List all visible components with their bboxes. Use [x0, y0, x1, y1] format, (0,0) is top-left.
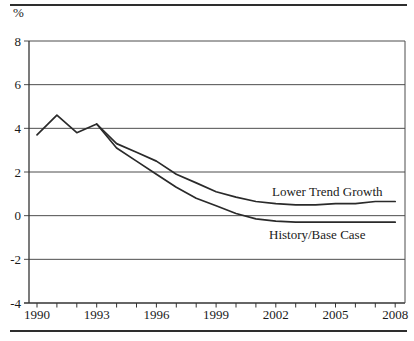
series-line-history-base-case	[37, 115, 395, 222]
series-label-history-base-case: History/Base Case	[269, 228, 365, 242]
bottom-rule	[10, 330, 407, 332]
x-tick-label-1996: 1996	[143, 307, 170, 322]
y-tick-label--2: -2	[10, 252, 21, 267]
x-tick-label-1993: 1993	[84, 307, 110, 322]
x-tick-label-2005: 2005	[323, 307, 349, 322]
y-tick-label-4: 4	[15, 121, 22, 136]
x-tick-label-2008: 2008	[382, 307, 408, 322]
y-tick-label-6: 6	[15, 77, 22, 92]
y-tick-label-8: 8	[15, 34, 22, 49]
y-tick-label--4: -4	[10, 296, 21, 311]
x-tick-label-1990: 1990	[24, 307, 50, 322]
line-chart: 86420-2-41990199319961999200220052008	[0, 0, 414, 341]
x-tick-label-1999: 1999	[203, 307, 229, 322]
y-tick-label-0: 0	[15, 208, 22, 223]
x-tick-label-2002: 2002	[263, 307, 289, 322]
growth-chart-figure: % 86420-2-41990199319961999200220052008 …	[0, 0, 414, 341]
series-label-lower-trend-growth: Lower Trend Growth	[272, 185, 383, 199]
y-tick-label-2: 2	[15, 165, 22, 180]
